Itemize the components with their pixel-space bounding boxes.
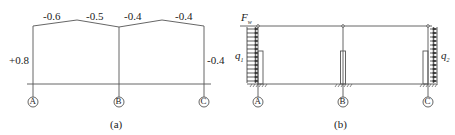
q1-subscript: 1: [241, 57, 244, 63]
left-wall-coef: +0.8: [9, 55, 29, 66]
axis-label-c: C: [201, 97, 207, 106]
right-wall-coef: -0.4: [207, 55, 224, 66]
structure-diagrams: [0, 0, 455, 135]
roof-coef-1: -0.6: [43, 11, 60, 22]
axis-label-b-b: B: [340, 97, 346, 106]
roof-coef-3: -0.4: [124, 11, 141, 22]
q2-subscript: 2: [447, 57, 450, 63]
load-q1-arrows: [247, 27, 258, 83]
roof-coef-4: -0.4: [175, 11, 192, 22]
roof-coef-2: -0.5: [86, 11, 103, 22]
load-q2-arrows: [430, 27, 437, 83]
caption-b: (b): [334, 119, 347, 130]
load-label-q1: q1: [235, 50, 244, 63]
axis-label-b-a: A: [255, 97, 262, 106]
force-symbol: F: [241, 11, 248, 23]
frame-b: [240, 25, 438, 107]
caption-a: (a): [110, 119, 122, 130]
frame-a: [27, 20, 211, 107]
load-label-q2: q2: [441, 50, 450, 63]
force-label-fw: Fw: [241, 12, 252, 25]
axis-label-b: B: [116, 97, 122, 106]
axis-label-a: A: [30, 97, 37, 106]
force-subscript: w: [248, 19, 252, 25]
axis-label-b-c: C: [425, 97, 431, 106]
